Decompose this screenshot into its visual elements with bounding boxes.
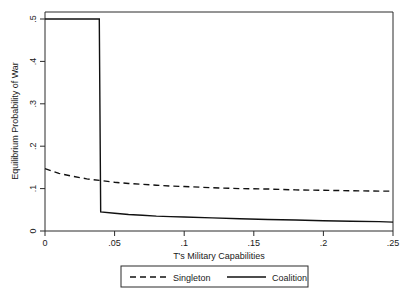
legend-label-singleton: Singleton bbox=[173, 273, 211, 283]
x-tick-label: .2 bbox=[320, 238, 328, 248]
plot-frame bbox=[45, 12, 393, 231]
y-tick-label: .4 bbox=[28, 58, 38, 66]
y-tick-label: .1 bbox=[28, 185, 38, 193]
x-tick-label: .05 bbox=[108, 238, 121, 248]
y-tick-label: .2 bbox=[28, 142, 38, 150]
x-axis-title: T's Military Capabilities bbox=[173, 251, 265, 261]
chart-legend: Singleton Coalition bbox=[121, 266, 308, 287]
series-singleton-line bbox=[45, 169, 393, 191]
x-tick-label: .1 bbox=[180, 238, 188, 248]
y-tick-label: .5 bbox=[28, 15, 38, 23]
x-axis-ticks bbox=[45, 231, 393, 236]
y-axis-ticks bbox=[40, 19, 45, 231]
legend-label-coalition: Coalition bbox=[272, 273, 307, 283]
y-axis-tick-labels: .5 .4 .3 .2 .1 0 bbox=[28, 15, 38, 233]
y-axis-title: Equilibrium Probability of War bbox=[10, 62, 20, 180]
series-coalition-line bbox=[45, 19, 393, 222]
chart-svg: .5 .4 .3 .2 .1 0 Equilibrium Probability… bbox=[0, 0, 416, 291]
chart-figure: .5 .4 .3 .2 .1 0 Equilibrium Probability… bbox=[0, 0, 416, 291]
x-tick-label: 0 bbox=[42, 238, 47, 248]
x-tick-label: .15 bbox=[248, 238, 261, 248]
y-tick-label: .3 bbox=[28, 100, 38, 108]
y-tick-label: 0 bbox=[28, 228, 38, 233]
x-tick-label: .25 bbox=[387, 238, 400, 248]
x-axis-tick-labels: 0 .05 .1 .15 .2 .25 bbox=[42, 238, 399, 248]
series-group bbox=[45, 19, 393, 222]
